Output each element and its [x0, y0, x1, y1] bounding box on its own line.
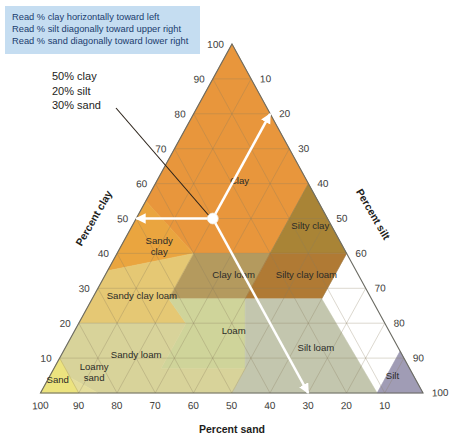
- tick-sand-50: 50: [226, 400, 238, 412]
- label-loam: Loam: [222, 325, 246, 336]
- label-clay-loam: Clay loam: [212, 269, 255, 280]
- tick-silt-80: 80: [393, 317, 405, 328]
- ternary-plot: ClaySilty claySandyclayClay loamSilty cl…: [0, 0, 469, 446]
- axis-title-silt: Percent silt: [354, 186, 393, 241]
- tick-sand-40: 40: [264, 400, 276, 412]
- tick-silt-20: 20: [279, 108, 291, 119]
- soil-texture-triangle-figure: Read % clay horizontally toward left Rea…: [0, 0, 469, 446]
- tick-silt-70: 70: [374, 282, 386, 293]
- label-sandy-loam: Sandy loam: [111, 349, 162, 360]
- tick-clay-100: 100: [207, 38, 224, 50]
- tick-clay-40: 40: [98, 248, 110, 259]
- tick-sand-80: 80: [111, 400, 123, 412]
- tick-clay-70: 70: [155, 143, 167, 154]
- tick-sand-20: 20: [340, 400, 352, 412]
- tick-clay-20: 20: [59, 318, 71, 329]
- label-silty-clay-loam: Silty clay loam: [276, 269, 337, 280]
- tick-sand-70: 70: [149, 400, 161, 412]
- tick-silt-50: 50: [336, 213, 348, 224]
- label-silt: Silt: [386, 370, 400, 381]
- label-silt-loam: Silt loam: [298, 342, 335, 353]
- tick-sand-30: 30: [302, 400, 314, 412]
- tick-sand-90: 90: [73, 400, 85, 412]
- label-sand: Sand: [46, 374, 68, 385]
- tick-silt-90: 90: [413, 352, 425, 363]
- label-loamy-sand: Loamysand: [80, 361, 109, 383]
- tick-sand-100: 100: [32, 400, 50, 412]
- tick-silt-30: 30: [298, 143, 310, 154]
- tick-clay-50: 50: [117, 213, 129, 224]
- label-silty-clay: Silty clay: [291, 220, 329, 231]
- tick-clay-80: 80: [174, 108, 186, 119]
- tick-sand-60: 60: [187, 400, 199, 412]
- sample-point-marker[interactable]: [207, 213, 218, 224]
- tick-silt-10: 10: [260, 73, 272, 84]
- tick-sand-10: 10: [379, 400, 391, 412]
- tick-clay-90: 90: [193, 73, 205, 84]
- label-sandy-clay-loam: Sandy clay loam: [107, 290, 177, 301]
- tick-silt-40: 40: [317, 178, 329, 189]
- tick-silt-100: 100: [432, 387, 449, 399]
- axis-title-clay: Percent clay: [73, 188, 114, 248]
- tick-silt-60: 60: [355, 248, 367, 259]
- axis-title-sand: Percent sand: [199, 423, 265, 435]
- tick-clay-10: 10: [40, 353, 52, 364]
- tick-clay-60: 60: [136, 178, 148, 189]
- tick-clay-30: 30: [78, 283, 90, 294]
